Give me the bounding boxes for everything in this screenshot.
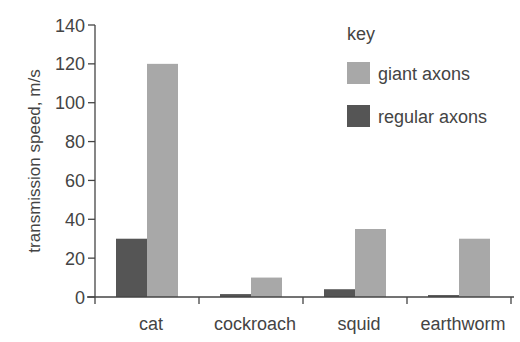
bar-cat-giant-axons xyxy=(147,64,178,297)
y-tick-label: 140 xyxy=(55,16,85,36)
legend-swatch-giant-axons xyxy=(347,62,370,84)
x-category-label: cat xyxy=(139,314,163,334)
y-tick-label: 120 xyxy=(55,54,85,74)
legend-title: key xyxy=(347,24,375,44)
y-axis-title: transmission speed, m/s xyxy=(25,69,44,252)
legend-label-regular-axons: regular axons xyxy=(378,107,487,127)
x-axis: catcockroachsquidearthworm xyxy=(87,297,514,334)
bars xyxy=(116,64,490,297)
y-tick-label: 60 xyxy=(65,171,85,191)
legend: key giant axons regular axons xyxy=(347,24,487,127)
bar-cockroach-giant-axons xyxy=(251,278,282,297)
bar-squid-giant-axons xyxy=(355,229,386,297)
bar-earthworm-giant-axons xyxy=(459,239,490,297)
bar-cat-regular-axons xyxy=(116,239,147,297)
x-category-label: cockroach xyxy=(214,314,296,334)
y-tick-label: 100 xyxy=(55,93,85,113)
y-axis: 020406080100120140 xyxy=(55,16,95,308)
y-tick-label: 20 xyxy=(65,249,85,269)
legend-label-giant-axons: giant axons xyxy=(378,64,470,84)
bar-squid-regular-axons xyxy=(324,289,355,297)
legend-swatch-regular-axons xyxy=(347,105,370,127)
x-category-label: squid xyxy=(337,314,380,334)
x-category-label: earthworm xyxy=(420,314,505,334)
y-tick-label: 80 xyxy=(65,132,85,152)
y-tick-label: 40 xyxy=(65,210,85,230)
y-tick-label: 0 xyxy=(75,288,85,308)
bar-chart: 020406080100120140 catcockroachsquideart… xyxy=(0,0,520,342)
